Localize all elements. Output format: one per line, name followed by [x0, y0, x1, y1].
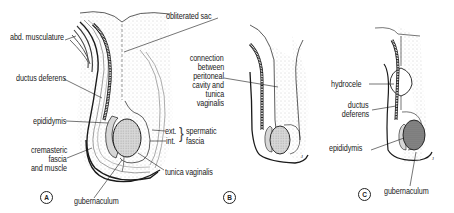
- label-gubernaculum-a: gubernaculum: [74, 197, 119, 206]
- label-ductus-deferens: ductus deferens: [16, 74, 66, 83]
- panel-letter-a: A: [40, 191, 53, 204]
- label-connection-2: between: [197, 63, 224, 72]
- label-ductus-c-2: deferens: [342, 110, 369, 119]
- label-spermatic-1: spermatic: [186, 127, 216, 136]
- label-tunica-vaginalis: tunica vaginalis: [165, 168, 213, 177]
- label-gubernaculum-c: gubernaculum: [384, 187, 429, 196]
- label-connection-5: tunica: [205, 90, 224, 99]
- svg-text:J: J: [301, 154, 303, 159]
- figure: J J abd. musculature obliterated sac duc…: [0, 0, 454, 213]
- panel-a-drawing: [70, 12, 173, 182]
- label-obliterated-sac: obliterated sac: [166, 12, 212, 21]
- label-connection-3: peritoneal: [193, 72, 224, 81]
- label-epididymis-c: epididymis: [329, 144, 362, 153]
- label-cremasteric-3: and muscle: [31, 164, 67, 173]
- panel-b-drawing: J: [250, 25, 308, 163]
- label-epididymis-a: epididymis: [33, 117, 66, 126]
- panel-c-drawing: J: [375, 26, 434, 164]
- label-ext: ext.: [165, 127, 176, 136]
- svg-text:J: J: [432, 156, 434, 161]
- panel-letter-b: B: [223, 191, 236, 204]
- panel-letter-c: C: [358, 188, 371, 201]
- label-connection-4: cavity and: [192, 81, 224, 90]
- anatomy-drawing: J J: [0, 0, 454, 213]
- label-hydrocele: hydrocele: [331, 80, 361, 89]
- label-spermatic-2: fascia: [186, 137, 204, 146]
- label-abd-musculature: abd. musculature: [10, 33, 64, 42]
- label-connection-6: vaginalis: [197, 99, 224, 108]
- label-cremasteric-1: cremasteric: [31, 146, 67, 155]
- label-int: int.: [166, 137, 175, 146]
- brace: }: [179, 124, 184, 144]
- label-connection-1: connection: [190, 54, 224, 63]
- label-cremasteric-2: fascia: [49, 155, 67, 164]
- label-ductus-c-1: ductus: [348, 101, 369, 110]
